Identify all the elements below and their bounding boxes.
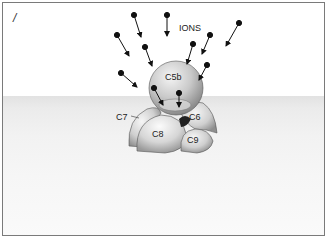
ion-icon (199, 62, 210, 80)
ion-icon (142, 44, 152, 66)
ion-particles (114, 12, 241, 107)
ion-icon (187, 41, 196, 64)
ion-icon (164, 12, 169, 36)
figure-frame: / C7 (2, 2, 325, 236)
pore-channel (179, 116, 191, 127)
svg-text:C7: C7 (116, 112, 128, 122)
mac-complex-diagram: C7 C6 C5b C8 C9 IONS (3, 3, 325, 236)
ions-label: IONS (179, 23, 201, 33)
svg-text:C8: C8 (152, 129, 164, 139)
svg-text:C9: C9 (187, 135, 199, 145)
c9-subunit: C9 (181, 129, 213, 153)
svg-text:C5b: C5b (165, 72, 182, 82)
ion-icon (226, 20, 242, 46)
ion-icon (118, 70, 137, 87)
svg-text:C6: C6 (189, 112, 201, 122)
ion-icon (202, 32, 213, 54)
ion-icon (114, 32, 129, 56)
ion-icon (131, 12, 141, 37)
c5b-subunit: C5b (149, 61, 203, 115)
